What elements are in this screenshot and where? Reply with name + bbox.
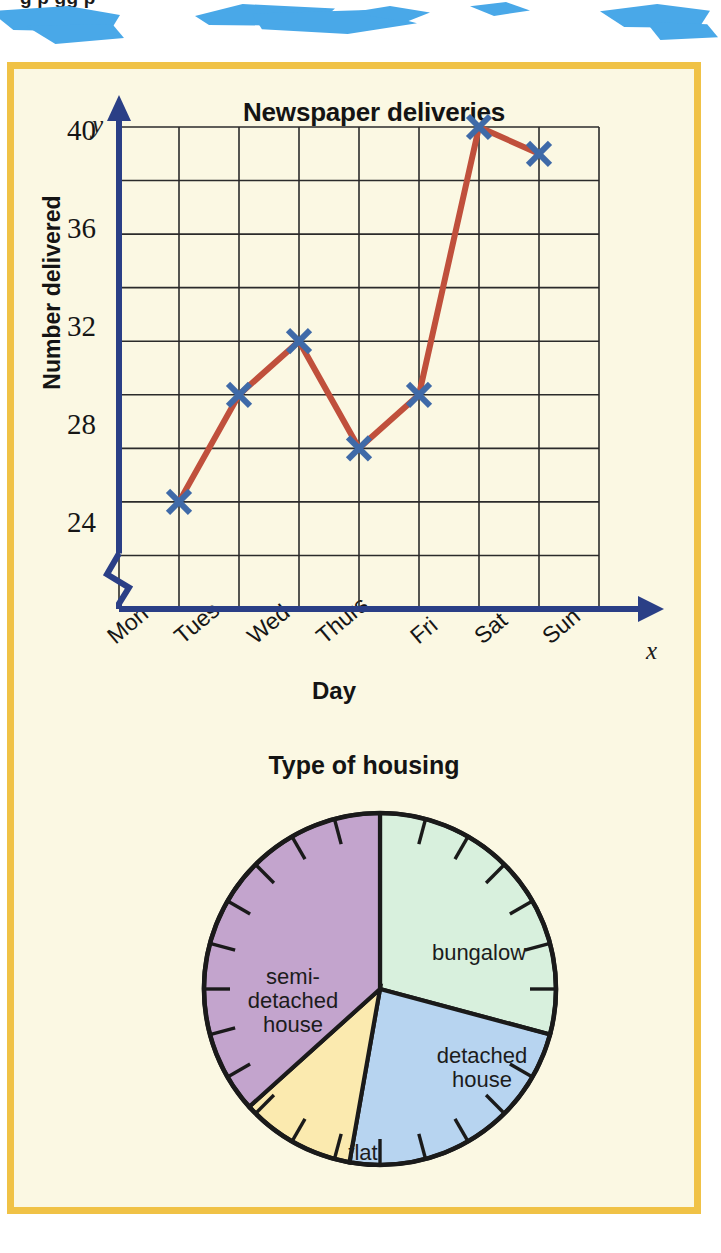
pie-label-semi-line3: house [214,1013,372,1037]
cut-off-header-text: g p gg p [20,0,710,9]
pie-label-flat-text: flat [318,1141,408,1165]
pie-label-detached-house: detached house [412,1044,552,1092]
brush-splash-8 [646,22,718,40]
header-band: g p gg p [0,0,721,60]
line-chart-plot [14,69,708,689]
pie-chart-title: Type of housing [134,751,594,780]
pie-label-detached-line2: house [412,1068,552,1092]
grid-lines [119,127,599,609]
content-panel: Newspaper deliveries Number delivered Da… [7,62,701,1214]
pie-label-detached-line1: detached [412,1044,552,1068]
pie-label-semi-line1: semi- [214,965,372,989]
page-root: g p gg p Newspaper deliveries Number del… [0,0,721,1253]
brush-splash-2 [26,24,124,44]
pie-label-bungalow-text: bungalow [404,941,554,965]
axes [107,95,664,622]
pie-label-flat: flat [318,1141,408,1165]
pie-label-bungalow: bungalow [404,941,554,965]
pie-label-semi-line2: detached [214,989,372,1013]
pie-label-semi-detached-house: semi- detached house [214,965,372,1036]
